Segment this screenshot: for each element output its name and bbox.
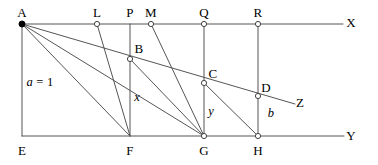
point-label-D: D <box>261 81 271 94</box>
segment-layer <box>22 24 344 136</box>
point-marker-G <box>201 133 206 138</box>
point-marker-R <box>255 21 260 26</box>
measure-label-x: x <box>134 91 140 104</box>
point-label-G: G <box>199 144 209 157</box>
point-marker-D <box>255 93 260 98</box>
measure-label-b: b <box>268 107 274 120</box>
line-ray-A-through-BCD-to-Z <box>22 24 295 104</box>
point-label-H: H <box>253 144 263 157</box>
point-label-B: B <box>135 42 144 55</box>
point-marker-B <box>127 56 132 61</box>
point-label-P: P <box>126 6 133 19</box>
point-label-Q: Q <box>199 6 209 19</box>
point-marker-H <box>255 133 260 138</box>
point-label-A: A <box>17 6 27 19</box>
point-label-C: C <box>209 67 218 80</box>
point-label-L: L <box>93 6 101 19</box>
geometry-figure: ALPMQRBCDEFGH a = 1xyb XYZ <box>0 0 378 165</box>
figure-canvas <box>0 0 378 165</box>
axis-end-label-X: X <box>346 16 356 29</box>
point-marker-C <box>201 80 206 85</box>
point-label-F: F <box>126 144 133 157</box>
axis-end-label-Y: Y <box>346 129 356 142</box>
measure-label-y: y <box>208 105 214 118</box>
point-label-E: E <box>18 144 26 157</box>
point-marker-L <box>94 21 99 26</box>
measure-label-a: a = 1 <box>27 76 54 89</box>
point-marker-A <box>19 21 25 27</box>
point-label-M: M <box>145 6 157 19</box>
point-label-R: R <box>254 6 263 19</box>
point-marker-M <box>148 21 153 26</box>
point-marker-layer <box>19 21 261 139</box>
axis-end-label-Z: Z <box>296 96 304 109</box>
point-marker-Q <box>201 21 206 26</box>
